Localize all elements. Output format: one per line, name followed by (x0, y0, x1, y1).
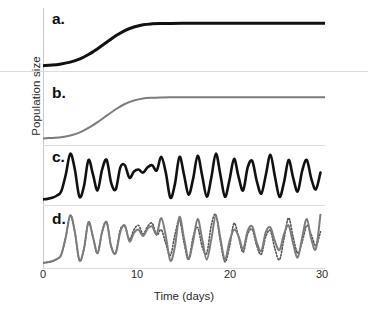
panel-c-curve (43, 154, 320, 200)
panel-a-curve (43, 23, 325, 65)
panel-c-plot (43, 148, 325, 205)
panel-c-separator (43, 205, 325, 206)
panel-d-svg (43, 210, 325, 268)
panel-c-svg (43, 148, 325, 205)
panel-d-curve-solid (43, 215, 320, 263)
panel-b-curve (43, 97, 325, 138)
panel-d-label: d. (52, 210, 66, 228)
panel-a-plot (43, 8, 325, 71)
x-tick-10: 10 (131, 268, 143, 280)
x-tick-20: 20 (224, 268, 236, 280)
x-axis-label: Time (days) (43, 290, 325, 302)
panel-b-plot (43, 82, 325, 145)
panel-b-separator (43, 145, 325, 146)
y-axis-label: Population size (30, 16, 42, 176)
panel-b-label: b. (52, 84, 66, 102)
x-tick-0: 0 (40, 268, 46, 280)
x-tick-30: 30 (316, 268, 328, 280)
panel-a-separator (0, 71, 368, 72)
population-dynamics-figure: Population size a. b. c. d. 0 10 20 30 T… (0, 0, 368, 315)
panel-d-separator (43, 268, 325, 269)
panel-d-plot (43, 210, 325, 268)
panel-b-svg (43, 82, 325, 145)
panel-c-label: c. (52, 148, 65, 166)
panel-a-svg (43, 8, 325, 71)
panel-a-label: a. (52, 10, 65, 28)
